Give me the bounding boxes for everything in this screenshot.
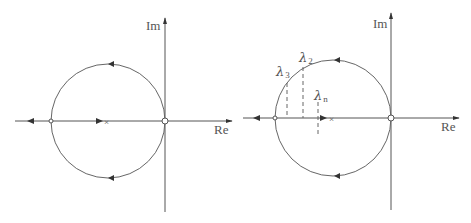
locus-arrow-top-icon xyxy=(108,61,114,67)
locus-arrow-bottom-icon xyxy=(334,173,340,179)
real-axis-label: Re xyxy=(441,119,456,134)
real-axis-label: Re xyxy=(214,122,229,137)
pole-cross-icon: × xyxy=(329,114,334,124)
real-axis-left-arrow-icon xyxy=(27,118,34,124)
breakin-point xyxy=(273,116,277,120)
origin-zero xyxy=(388,115,394,121)
locus-arrow-top-icon xyxy=(334,57,340,63)
imag-axis-label: Im xyxy=(146,18,160,33)
root-locus-figures: × Im Re × λ2 λ3 λn Im Re xyxy=(0,0,471,223)
pole-cross-icon: × xyxy=(104,117,109,127)
lambda2-label: λ2 xyxy=(298,50,313,66)
locus-arrow-bottom-icon xyxy=(108,175,114,181)
right-diagram: × λ2 λ3 λn Im Re xyxy=(243,13,459,210)
origin-zero xyxy=(162,118,168,124)
left-diagram: × Im Re xyxy=(15,18,232,212)
breakin-point xyxy=(49,119,53,123)
lambda3-label: λ3 xyxy=(275,64,290,80)
real-axis-left-arrow-icon xyxy=(253,115,260,121)
real-axis-inner-arrow-icon xyxy=(96,118,103,124)
real-axis-inner-arrow-icon xyxy=(320,115,327,121)
lambdan-label: λn xyxy=(313,88,328,104)
imag-axis-label: Im xyxy=(373,16,387,31)
